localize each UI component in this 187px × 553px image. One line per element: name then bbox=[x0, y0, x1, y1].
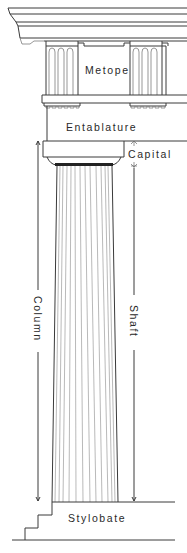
label-entablature: Entablature bbox=[66, 121, 137, 133]
capital-annulet bbox=[55, 163, 113, 166]
frieze: Metope bbox=[44, 41, 187, 95]
label-column: Column bbox=[32, 296, 44, 342]
triglyph-left bbox=[46, 46, 78, 95]
label-capital: Capital bbox=[128, 148, 172, 160]
label-shaft: Shaft bbox=[128, 305, 140, 338]
shaft bbox=[52, 166, 118, 502]
column-dimension: Column bbox=[32, 141, 44, 501]
cornice bbox=[8, 8, 187, 44]
label-stylobate: Stylobate bbox=[68, 512, 126, 524]
triglyph-right bbox=[130, 46, 166, 95]
architrave: Entablature bbox=[42, 95, 187, 141]
label-metope: Metope bbox=[85, 64, 130, 76]
doric-order-diagram: Metope Entablature Capital bbox=[0, 0, 187, 553]
capital: Capital bbox=[43, 141, 187, 168]
shaft-dimension: Shaft bbox=[128, 168, 140, 501]
stylobate: Stylobate bbox=[12, 502, 175, 540]
